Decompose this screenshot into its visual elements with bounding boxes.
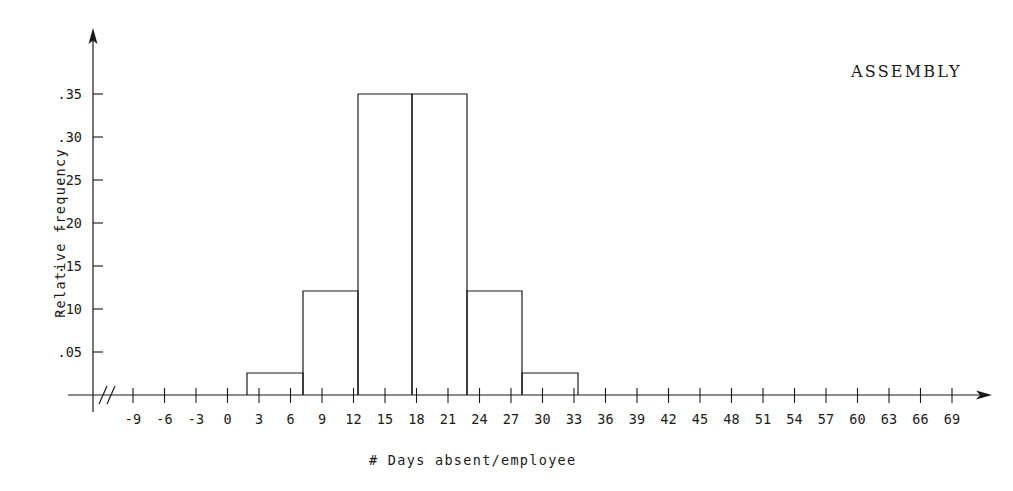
x-tick-label: 30 <box>534 411 550 427</box>
x-tick-label: 12 <box>345 411 361 427</box>
bar-bin-2 <box>303 291 358 395</box>
x-tick-label: 9 <box>318 411 326 427</box>
y-tick-label: .30 <box>50 129 82 145</box>
x-tick-label: -9 <box>125 411 141 427</box>
x-tick-label: 0 <box>223 411 231 427</box>
x-tick-label: 42 <box>660 411 676 427</box>
bar-bin-6 <box>522 373 578 395</box>
y-tick-label: .35 <box>50 86 82 102</box>
y-tick-label: .05 <box>50 344 82 360</box>
x-tick-label: 36 <box>597 411 613 427</box>
y-axis-group <box>89 28 104 412</box>
bar-bin-1 <box>247 373 303 395</box>
x-tick-label: 60 <box>849 411 865 427</box>
x-tick-label: 57 <box>818 411 834 427</box>
x-tick-label: 39 <box>629 411 645 427</box>
x-tick-label: 3 <box>255 411 263 427</box>
x-tick-label: 45 <box>692 411 708 427</box>
x-tick-label: 18 <box>408 411 424 427</box>
x-tick-label: 33 <box>566 411 582 427</box>
y-tick-label: .10 <box>50 301 82 317</box>
x-axis-title: # Days absent/employee <box>369 452 576 468</box>
y-tick-label: .15 <box>50 258 82 274</box>
x-tick-label: 15 <box>377 411 393 427</box>
x-tick-label: 21 <box>440 411 456 427</box>
bar-bin-3 <box>358 94 412 395</box>
bar-bin-5 <box>467 291 522 395</box>
x-tick-label: 66 <box>912 411 928 427</box>
bar-bin-4 <box>412 94 467 395</box>
x-tick-label: -3 <box>188 411 204 427</box>
chart-page: ASSEMBLY Relative frequency # Days absen… <box>0 0 1013 491</box>
x-tick-label: 27 <box>503 411 519 427</box>
y-tick-label: .20 <box>50 215 82 231</box>
histogram-bars <box>247 94 578 395</box>
x-tick-label: 63 <box>881 411 897 427</box>
y-tick-label: .25 <box>50 172 82 188</box>
x-tick-label: 51 <box>755 411 771 427</box>
x-tick-label: 54 <box>786 411 802 427</box>
x-tick-label: 6 <box>286 411 294 427</box>
chart-title: ASSEMBLY <box>851 62 962 81</box>
x-tick-label: 69 <box>944 411 960 427</box>
x-tick-label: 48 <box>723 411 739 427</box>
x-tick-label: -6 <box>156 411 172 427</box>
x-axis-group <box>68 386 992 404</box>
x-tick-label: 24 <box>471 411 487 427</box>
